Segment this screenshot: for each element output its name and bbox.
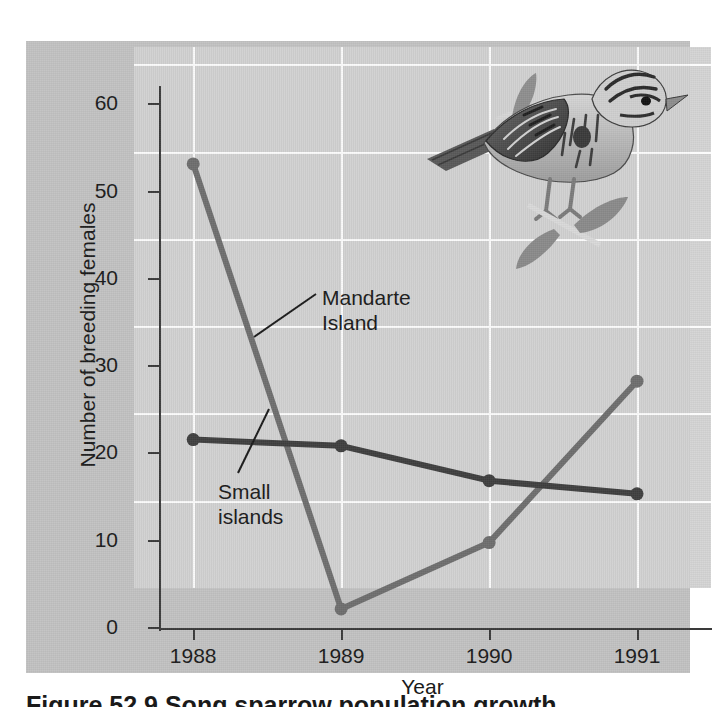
leader-line-mandarte xyxy=(254,294,316,337)
annotation-small-islands: Small islands xyxy=(218,479,283,529)
leader-line-small-islands xyxy=(238,409,269,473)
annotation-mandarte-island: Mandarte Island xyxy=(322,285,411,335)
bird-eye xyxy=(641,97,651,106)
figure-panel: 0102030405060 1988198919901991 Number of… xyxy=(26,41,690,673)
song-sparrow-illustration xyxy=(424,59,689,269)
figure-caption-partial: Figure 52.9 Song sparrow population grow… xyxy=(26,690,690,707)
bird-breast-spot xyxy=(573,126,591,148)
bird-beak xyxy=(666,95,688,111)
